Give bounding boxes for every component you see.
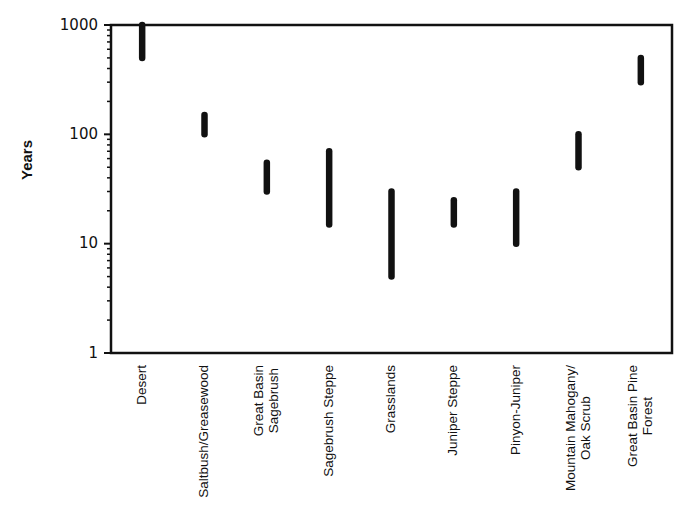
svg-text:Saltbush/Greasewood: Saltbush/Greasewood — [196, 365, 211, 498]
svg-text:Juniper Steppe: Juniper Steppe — [445, 365, 460, 456]
x-tick-label: Pinyon-Juniper — [508, 365, 523, 456]
svg-text:Great Basin: Great Basin — [251, 365, 266, 436]
x-tick-label: Grasslands — [383, 365, 398, 434]
y-axis-ticks: 1101001000 — [60, 16, 111, 362]
x-tick-label: Great BasinSagebrush — [251, 365, 281, 436]
y-tick-label: 10 — [79, 234, 98, 252]
svg-text:Mountain Mahogany/: Mountain Mahogany/ — [563, 365, 578, 491]
svg-text:Sagebrush: Sagebrush — [266, 368, 281, 433]
x-tick-label: Juniper Steppe — [445, 365, 460, 456]
y-tick-label: 1 — [88, 344, 98, 362]
svg-text:Sagebrush Steppe: Sagebrush Steppe — [321, 365, 336, 477]
x-tick-label: Mountain Mahogany/Oak Scrub — [563, 365, 593, 491]
x-tick-label: Sagebrush Steppe — [321, 365, 336, 477]
svg-text:Great Basin Pine: Great Basin Pine — [625, 365, 640, 467]
svg-text:Pinyon-Juniper: Pinyon-Juniper — [508, 365, 523, 456]
y-tick-label: 100 — [69, 125, 98, 143]
y-axis-label: Years — [18, 140, 35, 180]
x-tick-label: Desert — [134, 365, 149, 405]
svg-text:Desert: Desert — [134, 365, 149, 405]
svg-text:Oak Scrub: Oak Scrub — [578, 396, 593, 460]
chart: Years 1101001000 DesertSaltbush/Greasewo… — [0, 0, 682, 529]
range-bars — [142, 25, 641, 277]
x-axis-labels: DesertSaltbush/GreasewoodGreat BasinSage… — [134, 365, 655, 498]
svg-text:Forest: Forest — [640, 397, 655, 436]
x-tick-label: Great Basin PineForest — [625, 365, 655, 467]
y-tick-label: 1000 — [60, 16, 98, 34]
svg-text:Grasslands: Grasslands — [383, 365, 398, 434]
x-tick-label: Saltbush/Greasewood — [196, 365, 211, 498]
